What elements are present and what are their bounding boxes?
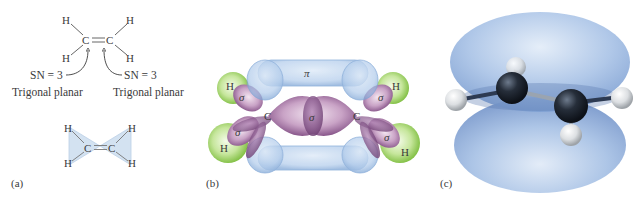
atom-h: H (220, 142, 228, 154)
sigma-bond-label: σ (239, 91, 245, 103)
hydrogen-atom (560, 124, 582, 146)
panel-label-b: (b) (206, 177, 219, 190)
sigma-bond-label: σ (309, 111, 315, 123)
panel-c: (c) (440, 12, 633, 193)
atom-c: C (353, 110, 360, 122)
sigma-bond-label: σ (384, 131, 390, 143)
steric-number-right: SN = 3 (124, 69, 157, 81)
hydrogen-atom (611, 87, 633, 109)
sigma-bond-label: σ (378, 91, 384, 103)
carbon-atom (496, 72, 528, 104)
panel-b: π σ σ σ σ σ C C H H H H (b) (206, 60, 420, 190)
pi-orbital-bottom (247, 137, 378, 173)
atom-h: H (62, 52, 70, 64)
planar-structure: H H C C H H (64, 122, 136, 169)
atom-h: H (62, 14, 70, 26)
steric-number-left: SN = 3 (30, 69, 63, 81)
atom-c: C (84, 142, 91, 154)
sigma-bond-label: σ (235, 126, 241, 138)
ethylene-bonding-figure: H H C C H H SN = 3 SN = 3 Trigonal plana… (0, 0, 643, 197)
panel-label-c: (c) (440, 177, 453, 190)
hydrogen-atom (445, 89, 467, 111)
carbon-atom (554, 89, 588, 123)
atom-h: H (401, 146, 409, 158)
atom-c: C (82, 34, 89, 46)
atom-h: H (64, 157, 72, 169)
pi-bond-label: π (304, 67, 310, 79)
lewis-structure: H H C C H H SN = 3 SN = 3 Trigonal plana… (12, 14, 184, 99)
atom-h: H (126, 14, 134, 26)
atom-h: H (128, 122, 136, 134)
atom-h: H (226, 80, 234, 92)
atom-c: C (264, 110, 271, 122)
arrow-right-icon (104, 50, 122, 75)
atom-h: H (392, 80, 400, 92)
geometry-right: Trigonal planar (113, 86, 184, 99)
atom-h: H (128, 157, 136, 169)
geometry-left: Trigonal planar (12, 86, 83, 99)
atom-c: C (106, 34, 113, 46)
atom-c: C (108, 142, 115, 154)
atom-h: H (64, 122, 72, 134)
panel-label-a: (a) (11, 177, 24, 190)
atom-h: H (126, 52, 134, 64)
panel-a: H H C C H H SN = 3 SN = 3 Trigonal plana… (11, 14, 184, 190)
pi-orbital-top (247, 60, 378, 100)
